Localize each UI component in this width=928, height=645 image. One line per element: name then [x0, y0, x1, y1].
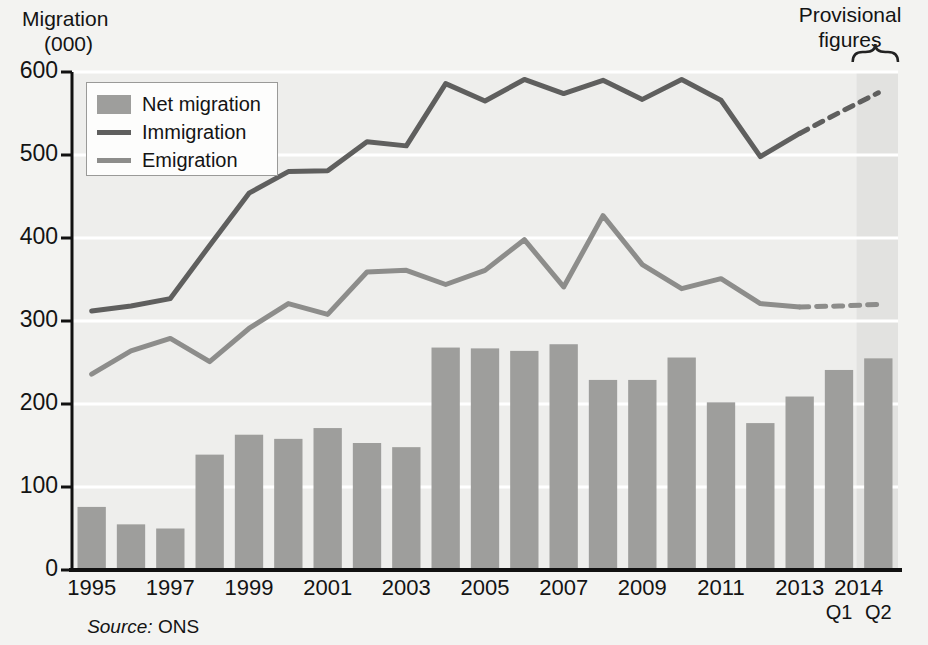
source-note-prefix: Source:	[87, 616, 152, 637]
x-quarter-label: Q2	[853, 601, 903, 624]
emigration-line-swatch-icon	[97, 158, 131, 163]
bar	[825, 370, 853, 570]
legend-item-immigration: Immigration	[97, 118, 277, 146]
bar	[668, 358, 696, 570]
bar	[432, 348, 460, 570]
bar	[196, 455, 224, 570]
legend-label-emigration: Emigration	[142, 149, 238, 172]
bar	[864, 358, 892, 570]
bar	[314, 428, 342, 570]
bar	[156, 529, 184, 571]
provisional-bracket	[853, 44, 898, 62]
y-tick-label: 500	[2, 140, 58, 167]
legend-item-emigration: Emigration	[97, 146, 277, 174]
net-migration-swatch-icon	[97, 95, 131, 114]
x-tick-label: 1997	[130, 575, 210, 601]
legend-label-net-migration: Net migration	[142, 93, 261, 116]
x-tick-label: 1995	[52, 575, 132, 601]
bar	[589, 380, 617, 570]
bar	[392, 447, 420, 570]
x-tick-label: 1999	[209, 575, 289, 601]
x-tick-label: 2011	[681, 575, 761, 601]
bar	[353, 443, 381, 570]
immigration-line-swatch-icon	[97, 130, 131, 135]
y-tick-label: 0	[2, 555, 58, 582]
y-tick-label: 300	[2, 306, 58, 333]
bar	[510, 351, 538, 570]
y-tick-label: 600	[2, 57, 58, 84]
bar	[550, 344, 578, 570]
bar	[628, 380, 656, 570]
source-note-value: ONS	[153, 616, 199, 637]
legend-item-net-migration: Net migration	[97, 90, 277, 118]
source-note: Source: ONS	[66, 594, 199, 645]
bar	[117, 524, 145, 570]
y-tick-label: 200	[2, 389, 58, 416]
bar	[746, 423, 774, 570]
bar	[707, 402, 735, 570]
x-tick-label: 2001	[288, 575, 368, 601]
x-tick-label: 2009	[602, 575, 682, 601]
y-tick-label: 400	[2, 223, 58, 250]
x-tick-label: 2014	[819, 575, 899, 601]
y-tick-label: 100	[2, 472, 58, 499]
x-tick-label: 2007	[524, 575, 604, 601]
migration-chart: Migration (000) Provisionalfigures Net m…	[0, 0, 928, 645]
bar	[235, 435, 263, 570]
bar	[786, 397, 814, 570]
x-tick-label: 2005	[445, 575, 525, 601]
legend-label-immigration: Immigration	[142, 121, 246, 144]
bar	[471, 348, 499, 570]
bar	[78, 507, 106, 570]
x-tick-label: 2003	[366, 575, 446, 601]
bar	[274, 439, 302, 570]
chart-legend: Net migration Immigration Emigration	[86, 82, 278, 176]
